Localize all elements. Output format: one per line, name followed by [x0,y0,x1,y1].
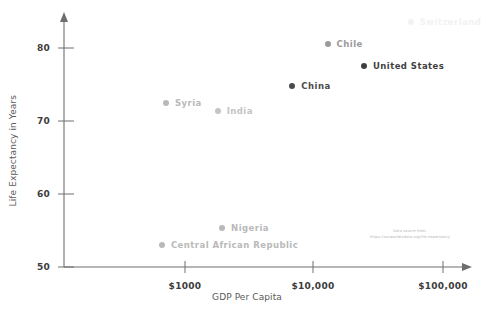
x-tick-label-1000: $1000 [169,281,202,291]
y-axis-title: Life Expectancy in Years [8,95,18,206]
x-tick-label-10000: $10,000 [291,281,334,291]
data-point-marker-icon [159,242,165,248]
data-point[interactable]: Switzerland [408,17,482,27]
y-tick-label-60: 60 [20,189,50,199]
data-point-marker-icon [163,100,169,106]
y-tick-label-80: 80 [20,43,50,53]
data-point[interactable]: United States [361,61,444,71]
data-point-label: Nigeria [231,223,269,233]
x-axis-arrow-icon [462,263,472,271]
data-point-label: United States [373,61,444,71]
data-point[interactable]: Syria [163,98,202,108]
data-point-marker-icon [361,63,367,69]
data-source-note: Data source from: https://ourworldindata… [348,228,472,241]
data-point-label: Chile [337,39,363,49]
data-point-marker-icon [408,19,414,25]
data-point-marker-icon [215,108,221,114]
data-point[interactable]: Nigeria [219,223,269,233]
data-point-label: Central African Republic [171,240,298,250]
data-point-label: Syria [175,98,202,108]
y-tick-label-50: 50 [20,262,50,272]
data-point-marker-icon [325,41,331,47]
data-point-marker-icon [219,225,225,231]
data-point-label: China [301,81,330,91]
y-tick-label-70: 70 [20,116,50,126]
data-source-line-2: https://ourworldindata.org/life-expectan… [348,234,472,240]
x-tick-label-100000: $100,000 [418,281,468,291]
data-point-label: Switzerland [420,17,482,27]
chart-axes [0,0,494,320]
data-point-label: India [227,106,253,116]
y-axis-arrow-icon [60,12,68,22]
x-axis-title: GDP Per Capita [0,292,494,302]
data-point[interactable]: China [289,81,330,91]
data-point-marker-icon [289,83,295,89]
data-point[interactable]: Chile [325,39,363,49]
data-point[interactable]: Central African Republic [159,240,298,250]
data-point[interactable]: India [215,106,253,116]
scatter-chart: 80 70 60 50 $1000 $10,000 $100,000 Life … [0,0,494,320]
